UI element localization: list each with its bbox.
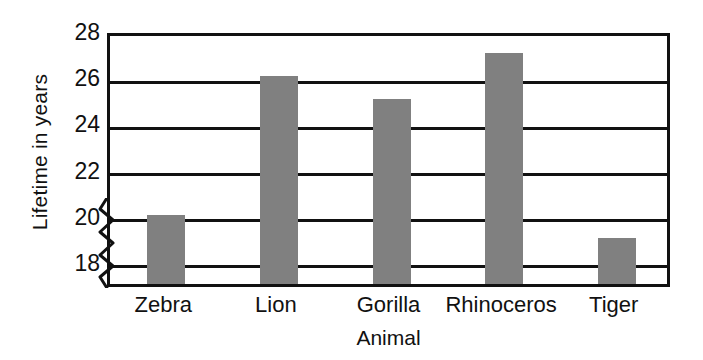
bar-tiger (598, 238, 636, 284)
x-axis-tick-label-lion: Lion (255, 292, 297, 318)
axis-break-zigzag-icon (96, 198, 120, 288)
bars-layer (110, 36, 667, 284)
y-axis-tick-label: 20 (54, 206, 100, 229)
bar-chart-figure: Lifetime in years 182022242628 ZebraLion… (0, 0, 703, 360)
x-axis-tick-label-tiger: Tiger (589, 292, 638, 318)
x-axis-tick-label-gorilla: Gorilla (357, 292, 421, 318)
y-axis-tick-labels: 182022242628 (52, 0, 100, 360)
y-axis-tick-label: 24 (54, 113, 100, 136)
x-axis-tick-label-rhinoceros: Rhinoceros (445, 292, 556, 318)
bar-rhinoceros (485, 53, 523, 284)
bar-zebra (147, 215, 185, 284)
y-axis-tick-label: 28 (54, 21, 100, 44)
plot-area (107, 33, 670, 287)
x-axis-tick-label-zebra: Zebra (135, 292, 192, 318)
y-axis-tick-label: 26 (54, 67, 100, 90)
bar-lion (260, 76, 298, 284)
x-axis-title: Animal (107, 326, 670, 350)
y-axis-title: Lifetime in years (28, 42, 52, 262)
y-axis-tick-label: 18 (54, 252, 100, 275)
y-axis-tick-label: 22 (54, 160, 100, 183)
bar-gorilla (373, 99, 411, 284)
x-axis-tick-labels: ZebraLionGorillaRhinocerosTiger (107, 292, 670, 324)
